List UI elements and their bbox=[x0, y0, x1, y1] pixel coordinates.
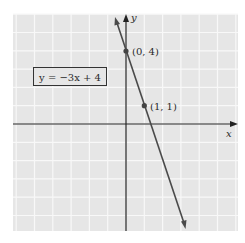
y-axis-label: y bbox=[130, 12, 137, 23]
equation-label: y = −3x + 4 bbox=[38, 72, 101, 83]
point-1-1 bbox=[142, 103, 147, 108]
point-label-1-1: (1, 1) bbox=[150, 101, 177, 112]
x-axis-label: x bbox=[226, 128, 232, 139]
point-0-4 bbox=[123, 48, 128, 53]
graph: x y (0, 4) (1, 1) y = −3x + 4 bbox=[0, 0, 245, 243]
point-label-0-4: (0, 4) bbox=[132, 46, 159, 57]
